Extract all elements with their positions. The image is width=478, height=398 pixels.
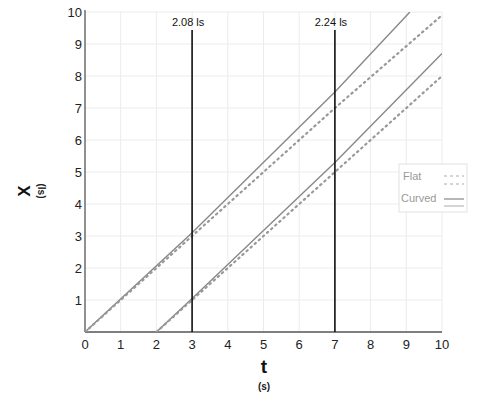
y-tick-label: 2 <box>75 261 82 276</box>
annotation-label: 2.24 ls <box>315 16 348 28</box>
x-tick-label: 5 <box>260 337 267 352</box>
y-tick-label: 1 <box>75 293 82 308</box>
y-axis-title: X <box>15 185 34 197</box>
x-tick-label: 0 <box>81 337 88 352</box>
legend-label-flat: Flat <box>403 170 421 182</box>
chart: 01234567891012345678910t(s)X(ls)2.08 ls2… <box>0 0 478 398</box>
x-tick-label: 4 <box>224 337 231 352</box>
y-tick-label: 6 <box>75 133 82 148</box>
y-tick-label: 3 <box>75 229 82 244</box>
x-axis-unit: (s) <box>258 381 270 392</box>
annotation-label: 2.08 ls <box>172 16 205 28</box>
x-tick-label: 9 <box>403 337 410 352</box>
y-tick-label: 9 <box>75 37 82 52</box>
x-tick-label: 6 <box>296 337 303 352</box>
x-tick-label: 7 <box>331 337 338 352</box>
y-tick-label: 8 <box>75 69 82 84</box>
legend-label-curved: Curved <box>401 192 436 204</box>
y-tick-label: 7 <box>75 101 82 116</box>
y-tick-label: 10 <box>68 5 82 20</box>
y-axis-unit: (ls) <box>36 184 47 199</box>
y-tick-label: 4 <box>75 197 82 212</box>
x-tick-label: 8 <box>367 337 374 352</box>
x-tick-label: 2 <box>153 337 160 352</box>
x-tick-label: 3 <box>188 337 195 352</box>
y-tick-label: 5 <box>75 165 82 180</box>
x-axis-title: t <box>261 356 268 377</box>
x-tick-label: 10 <box>435 337 449 352</box>
x-tick-label: 1 <box>117 337 124 352</box>
